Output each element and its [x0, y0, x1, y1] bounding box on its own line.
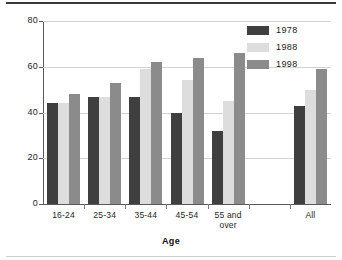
legend-item-1998: 1998 [247, 57, 298, 71]
bar-1998-16-24 [69, 94, 80, 204]
bar-1978-All [294, 106, 305, 204]
category-separator [125, 204, 126, 209]
bar-1998-25-34 [110, 83, 121, 204]
bar-1978-16-24 [47, 103, 58, 204]
bar-1988-45-54 [182, 80, 193, 204]
legend-swatch-icon [247, 26, 269, 35]
y-tick-label: 40 [12, 107, 38, 117]
bar-1978-45-54 [171, 113, 182, 205]
legend-item-1988: 1988 [247, 40, 298, 54]
x-axis-title: Age [0, 236, 342, 246]
chart-figure: Percentage 020406080 16-2425-3435-4445-5… [0, 0, 342, 260]
x-category-label: 16-24 [43, 210, 84, 220]
legend-label: 1998 [276, 59, 298, 69]
bar-1988-16-24 [58, 103, 69, 204]
x-category-label: 25-34 [84, 210, 125, 220]
bar-1978-55-and-over [212, 131, 223, 204]
legend-label: 1988 [276, 42, 298, 52]
bar-1998-All [316, 69, 327, 204]
x-category-label: 45-54 [166, 210, 207, 220]
y-tick-label: 80 [12, 15, 38, 25]
legend-label: 1978 [276, 25, 298, 35]
legend-item-1978: 1978 [247, 23, 298, 37]
y-tick-label: 0 [12, 198, 38, 208]
y-tick-mark [39, 158, 43, 159]
category-separator [249, 204, 250, 209]
bar-1988-55-and-over [223, 101, 234, 204]
category-separator [290, 204, 291, 209]
bar-1988-All [305, 90, 316, 204]
y-tick-mark [39, 113, 43, 114]
y-tick-mark [39, 67, 43, 68]
x-category-label: 55 and over [208, 210, 249, 230]
top-divider [6, 2, 336, 4]
bar-1978-35-44 [129, 97, 140, 205]
legend-swatch-icon [247, 43, 269, 52]
y-tick-mark [39, 204, 43, 205]
bar-1988-25-34 [99, 97, 110, 205]
bottom-divider [6, 256, 336, 257]
bar-1988-35-44 [140, 69, 151, 204]
x-category-label: 35-44 [125, 210, 166, 220]
chart-legend: 197819881998 [247, 23, 298, 74]
bar-1998-55-and-over [234, 53, 245, 204]
y-tick-mark [39, 21, 43, 22]
x-category-label: All [290, 210, 331, 220]
category-separator [208, 204, 209, 209]
legend-swatch-icon [247, 60, 269, 69]
bar-1998-45-54 [193, 58, 204, 204]
category-separator [166, 204, 167, 209]
y-tick-label: 60 [12, 61, 38, 71]
bar-1978-25-34 [88, 97, 99, 205]
category-separator [84, 204, 85, 209]
x-axis-line [43, 204, 331, 205]
bar-1998-35-44 [151, 62, 162, 204]
y-tick-label: 20 [12, 152, 38, 162]
